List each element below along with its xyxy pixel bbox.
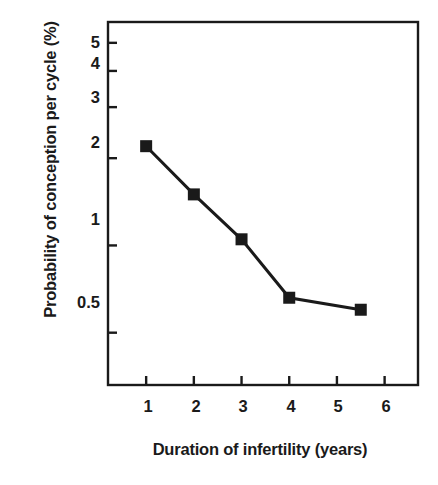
data-point-marker — [188, 188, 200, 200]
y-tick-label-3: 3 — [54, 89, 100, 106]
x-tick-label-5: 5 — [323, 398, 353, 415]
y-tick-label-0-5: 0.5 — [54, 294, 100, 311]
data-markers — [140, 140, 367, 316]
x-axis-ticks — [146, 376, 384, 385]
data-point-marker — [140, 140, 152, 152]
data-point-marker — [283, 292, 295, 304]
plot-frame — [108, 22, 418, 385]
x-tick-label-2: 2 — [181, 398, 211, 415]
x-axis-title: Duration of infertility (years) — [80, 440, 438, 459]
x-tick-label-3: 3 — [228, 398, 258, 415]
y-tick-label-4: 4 — [54, 55, 100, 72]
chart-figure: Probability of conception per cycle (%) … — [0, 0, 438, 485]
y-tick-label-5: 5 — [54, 34, 100, 51]
y-tick-label-2: 2 — [54, 134, 100, 151]
x-tick-label-6: 6 — [371, 398, 401, 415]
data-line — [146, 146, 361, 310]
data-point-marker — [236, 233, 248, 245]
data-point-marker — [355, 304, 367, 316]
y-tick-label-1: 1 — [54, 211, 100, 228]
x-tick-label-4: 4 — [276, 398, 306, 415]
y-axis-ticks — [108, 43, 117, 333]
x-tick-label-1: 1 — [133, 398, 163, 415]
